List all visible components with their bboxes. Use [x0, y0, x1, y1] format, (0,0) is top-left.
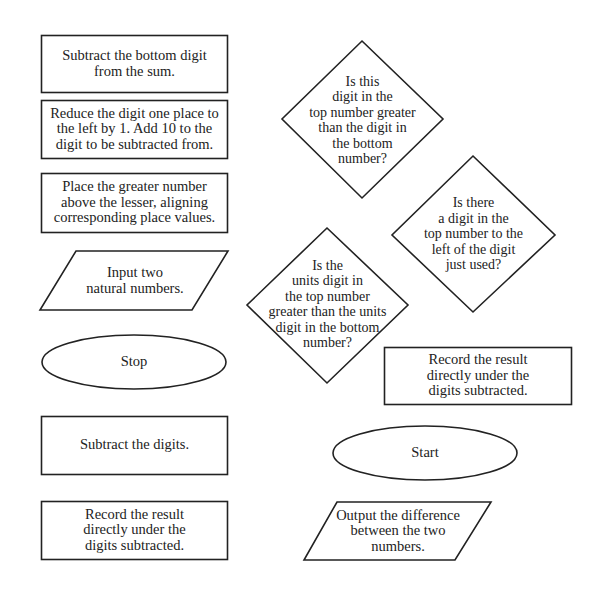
record-result-right-label: Record the result directly under the dig… — [384, 347, 572, 404]
label-line: Output the difference — [336, 508, 460, 524]
label-line: than the digit in — [318, 120, 406, 136]
place-greater-label: Place the greater number above the lesse… — [41, 173, 228, 232]
label-line: directly under the — [427, 368, 529, 384]
flowchart-canvas: Subtract the bottom digit from the sum. … — [0, 0, 600, 591]
label-line: from the sum. — [94, 64, 175, 80]
label-line: Reduce the digit one place to — [50, 106, 219, 122]
label-line: number? — [338, 151, 387, 167]
label-line: Is there — [453, 195, 495, 211]
label-line: the top number — [285, 289, 370, 305]
digit-to-left-label: Is there a digit in the top number to th… — [392, 194, 555, 274]
start-label: Start — [333, 426, 517, 480]
label-line: Stop — [121, 354, 148, 370]
label-line: Record the result — [428, 352, 527, 368]
this-digit-greater-label: Is this digit in the top number greater … — [282, 72, 443, 168]
label-line: between the two — [350, 523, 445, 539]
label-line: Record the result — [85, 507, 184, 523]
label-line: digits subtracted. — [428, 383, 527, 399]
label-line: Subtract the bottom digit — [62, 48, 207, 64]
subtract-bottom-from-sum-label: Subtract the bottom digit from the sum. — [41, 35, 228, 92]
output-label: Output the difference between the two nu… — [320, 502, 476, 560]
label-line: numbers. — [371, 539, 425, 555]
label-line: number? — [303, 335, 352, 351]
label-line: units digit in — [292, 273, 363, 289]
label-line: corresponding place values. — [54, 210, 215, 226]
label-line: digit in the bottom — [276, 320, 380, 336]
label-line: top number to the — [424, 226, 523, 242]
label-line: the bottom — [332, 136, 392, 152]
record-result-left-label: Record the result directly under the dig… — [41, 501, 228, 559]
subtract-digits-label: Subtract the digits. — [41, 416, 228, 474]
label-line: Is the — [312, 258, 343, 274]
label-line: Place the greater number — [62, 179, 207, 195]
label-line: Is this — [346, 74, 380, 90]
label-line: above the lesser, aligning — [61, 195, 208, 211]
label-line: digit to be subtracted from. — [56, 137, 213, 153]
label-line: Input two — [107, 265, 163, 281]
label-line: natural numbers. — [86, 281, 183, 297]
label-line: left of the digit — [432, 242, 516, 258]
label-line: greater than the units — [269, 304, 387, 320]
units-digit-greater-label: Is the units digit in the top number gre… — [247, 256, 408, 352]
label-line: directly under the — [83, 522, 185, 538]
label-line: digits subtracted. — [85, 538, 184, 554]
reduce-digit-label: Reduce the digit one place to the left b… — [41, 100, 228, 158]
input-label: Input two natural numbers. — [60, 251, 210, 310]
label-line: Subtract the digits. — [80, 437, 189, 453]
stop-label: Stop — [42, 335, 226, 389]
label-line: just used? — [446, 257, 502, 273]
label-line: top number greater — [309, 105, 416, 121]
label-line: Start — [411, 445, 438, 461]
label-line: a digit in the — [438, 211, 508, 227]
label-line: the left by 1. Add 10 to the — [57, 121, 212, 137]
label-line: digit in the — [332, 89, 393, 105]
